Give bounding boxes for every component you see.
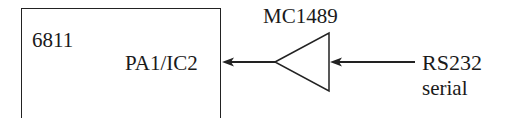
input-arrow [330,58,415,67]
signal-paths [0,0,518,118]
buffer-triangle-icon [275,33,329,91]
output-arrow [222,58,275,67]
